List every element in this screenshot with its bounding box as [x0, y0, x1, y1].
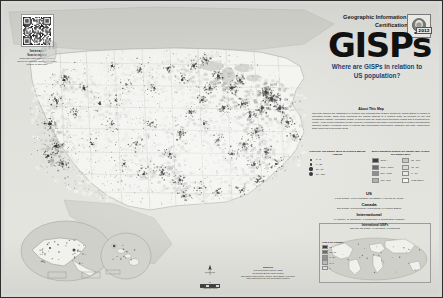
world-legend-row: 2 - 5 [322, 260, 343, 264]
legend-density-row: 500 - 1000 [372, 171, 400, 176]
north-arrow-block: N 0 250 500 Miles [197, 262, 223, 289]
legend-density-label: 50 - 100 [411, 159, 420, 162]
legend-density-swatch [372, 165, 379, 170]
legend-density-row: 50 - 100 [402, 158, 430, 163]
scale-bar [200, 284, 220, 286]
poster-header: Geographic Information Systems Certifica… [231, 13, 431, 61]
legend-dot-label: 51 - 120 [316, 173, 325, 176]
alaska-inset [20, 220, 112, 282]
legend-density-label: 10 - 50 [411, 166, 418, 169]
world-legend-swatch [322, 250, 328, 254]
legend-dot-swatch [310, 159, 312, 161]
legend-density-label: 1000 - 5000 [381, 166, 394, 169]
pointing-hand-icon [38, 38, 58, 64]
world-legend-swatch [322, 260, 328, 264]
gisps-wordmark: GISPs 2012 [328, 31, 431, 60]
legend-density-row: 1000 - 5000 [372, 165, 400, 170]
legend-dot-label: 6 - 20 [316, 163, 322, 166]
world-legend-label: 6 - 20 [330, 256, 335, 258]
org-line-1: Geographic Information Systems [231, 13, 431, 21]
callout-question: Where are GISPs in relation to US popula… [327, 62, 427, 80]
legend-dot-row: 6 - 20 [308, 163, 367, 166]
legend-density-heading: 2010 Population Density per Square Mile … [372, 150, 431, 156]
world-legend-label: 2 - 5 [330, 262, 334, 264]
legend-density-label: 500 - 1000 [381, 172, 392, 175]
stats-us-heading: US [308, 191, 430, 196]
map-legend: GISPs per 100 Square Miles at Certified … [308, 150, 430, 185]
credits-block: Sources GIS Certification Institute, 201… [232, 266, 304, 280]
stats-us-line: 6,001 GISPs | 3,179 Counties | 50 States… [308, 197, 430, 200]
world-legend-swatch [322, 245, 328, 249]
legend-dot-row: 51 - 120 [308, 172, 367, 176]
stats-canada-heading: Canada [308, 202, 430, 207]
legend-density-row: 5000 + [372, 158, 400, 163]
world-legend-swatch [322, 266, 328, 270]
legend-density-column: 2010 Population Density per Square Mile … [372, 150, 431, 185]
legend-dots-heading: GISPs per 100 Square Miles at Certified … [308, 150, 367, 156]
legend-dot-label: 21 - 50 [316, 168, 323, 171]
north-arrow-icon [204, 264, 216, 276]
world-legend-heading: GISPs per Country [322, 241, 343, 244]
about-heading: About This Map [312, 107, 430, 111]
credits-line-4: Map produced by the GIS Certification In… [232, 277, 304, 280]
about-body: This map displays the distribution of Ce… [312, 112, 430, 131]
world-legend-swatch [322, 255, 328, 259]
gisp-map-poster: Interact Scan to explore Scan this code … [0, 0, 443, 298]
legend-dot-row: 21 - 50 [308, 167, 367, 170]
legend-dot-swatch [309, 172, 313, 176]
world-legend-row: 51 + [322, 245, 343, 249]
legend-dot-swatch [309, 167, 312, 170]
world-legend-label: 21 - 50 [330, 251, 336, 253]
legend-dot-label: 1 - 5 [316, 158, 321, 161]
legend-density-swatch [402, 178, 409, 183]
legend-density-swatch [372, 171, 379, 176]
legend-dot-swatch [310, 163, 312, 165]
legend-density-label: 1 - 10 [411, 172, 417, 175]
stats-international-line: 94 GISPs | 41 Countries | 6 Continents |… [308, 218, 430, 221]
world-legend: GISPs per Country 51 +21 - 506 - 202 - 5… [322, 241, 343, 270]
world-legend-label: 1 [330, 267, 331, 269]
legend-density-swatch [402, 165, 409, 170]
world-legend-row: 21 - 50 [322, 250, 343, 254]
world-legend-label: 51 + [330, 246, 334, 248]
legend-density-swatch [402, 171, 409, 176]
legend-density-swatch [372, 158, 379, 163]
legend-density-label: 5000 + [381, 159, 388, 162]
legend-density-label: Less than 1 [411, 179, 423, 182]
statistics-block: US 6,001 GISPs | 3,179 Counties | 50 Sta… [308, 189, 430, 221]
north-arrow-label: N [197, 281, 223, 284]
world-legend-row: 1 [322, 266, 343, 270]
legend-dots-column: GISPs per 100 Square Miles at Certified … [308, 150, 367, 185]
world-inset: International GISPs 281 Non-US GISPs | 4… [319, 223, 431, 283]
legend-density-swatch [402, 158, 409, 163]
legend-density-row: 100 - 500 [372, 178, 400, 183]
legend-density-swatch [372, 178, 379, 183]
legend-density-label: 100 - 500 [381, 179, 391, 182]
legend-dot-row: 1 - 5 [308, 158, 367, 161]
hawaii-inset [100, 232, 156, 280]
legend-density-row: 10 - 50 [402, 165, 430, 170]
world-legend-row: 6 - 20 [322, 255, 343, 259]
poster-year: 2012 [416, 27, 432, 33]
about-block: About This Map This map displays the dis… [312, 107, 430, 131]
legend-density-row: Less than 1 [402, 178, 430, 183]
stats-canada-line: 187 GISPs | 13 Provinces | 3 Territories… [308, 207, 430, 210]
poster-inner: Interact Scan to explore Scan this code … [4, 4, 439, 294]
stats-international-heading: International [308, 212, 430, 217]
legend-density-row: 1 - 10 [402, 171, 430, 176]
